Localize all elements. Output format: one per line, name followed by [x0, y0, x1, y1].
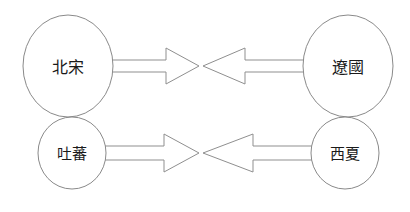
relationship-diagram: 北宋 遼國 吐蕃 西夏: [0, 0, 410, 212]
arrow-xixia-to-tubo: [203, 134, 315, 172]
diagram-canvas: 北宋 遼國 吐蕃 西夏: [0, 0, 410, 212]
node-label-xixia: 西夏: [330, 145, 360, 163]
node-label-liaoguo: 遼國: [332, 58, 364, 77]
block-arrow-left-bottom: [203, 134, 315, 172]
block-arrow-right-top: [104, 48, 199, 84]
arrow-liaoguo-to-beisong: [203, 48, 307, 84]
node-tubo[interactable]: 吐蕃: [38, 117, 106, 189]
node-label-beisong: 北宋: [52, 58, 84, 77]
arrow-tubo-to-xixia: [102, 134, 199, 172]
block-arrow-left-top: [203, 48, 307, 84]
node-label-tubo: 吐蕃: [57, 145, 87, 163]
arrow-beisong-to-liaoguo: [104, 48, 199, 84]
node-xixia[interactable]: 西夏: [311, 117, 379, 189]
node-liaoguo[interactable]: 遼國: [303, 15, 393, 117]
block-arrow-right-bottom: [102, 134, 199, 172]
node-beisong[interactable]: 北宋: [23, 15, 113, 117]
